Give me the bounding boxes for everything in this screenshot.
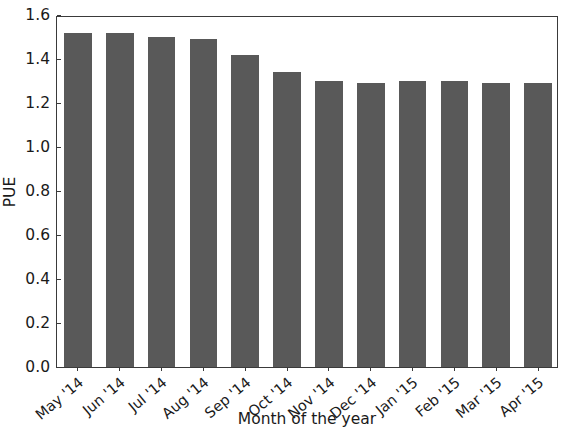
y-axis-tick-label: 0.4 bbox=[25, 269, 50, 289]
bar bbox=[315, 81, 343, 367]
bar bbox=[357, 83, 385, 367]
bar bbox=[441, 81, 469, 367]
y-axis-tick-label: 0.2 bbox=[25, 313, 50, 333]
x-axis-tick-mark bbox=[203, 367, 204, 371]
bar bbox=[106, 33, 134, 367]
y-axis-title: PUE bbox=[1, 16, 19, 368]
y-axis-tick-label: 1.4 bbox=[25, 49, 50, 69]
plot-area: 0.00.20.40.60.81.01.21.41.6 May '14Jun '… bbox=[56, 16, 558, 368]
bar bbox=[273, 72, 301, 367]
bar bbox=[524, 83, 552, 367]
y-axis-tick-label: 0.6 bbox=[25, 225, 50, 245]
x-axis-tick-mark bbox=[328, 367, 329, 371]
x-axis-tick-mark bbox=[77, 367, 78, 371]
x-axis-tick-mark bbox=[496, 367, 497, 371]
y-axis-tick-label: 1.2 bbox=[25, 93, 50, 113]
x-axis-tick-mark bbox=[119, 367, 120, 371]
y-axis-tick-label: 1.0 bbox=[25, 137, 50, 157]
bar bbox=[64, 33, 92, 367]
x-axis-tick-mark bbox=[245, 367, 246, 371]
x-axis-title: Month of the year bbox=[56, 410, 558, 429]
y-axis-tick-label: 0.8 bbox=[25, 181, 50, 201]
bar bbox=[399, 81, 427, 367]
y-axis-tick-label: 1.6 bbox=[25, 5, 50, 25]
bar bbox=[231, 55, 259, 367]
x-axis-tick-mark bbox=[538, 367, 539, 371]
x-axis-tick-mark bbox=[161, 367, 162, 371]
bar bbox=[190, 39, 218, 367]
x-axis-tick-mark bbox=[454, 367, 455, 371]
x-axis-tick-mark bbox=[287, 367, 288, 371]
y-axis-tick-mark bbox=[57, 15, 61, 16]
pue-bar-chart-figure: 0.00.20.40.60.81.01.21.41.6 May '14Jun '… bbox=[0, 0, 570, 435]
bar bbox=[148, 37, 176, 367]
bars-layer bbox=[57, 17, 557, 367]
y-axis-tick-label: 0.0 bbox=[25, 357, 50, 377]
bar bbox=[482, 83, 510, 367]
x-axis-tick-mark bbox=[370, 367, 371, 371]
x-axis-tick-mark bbox=[412, 367, 413, 371]
